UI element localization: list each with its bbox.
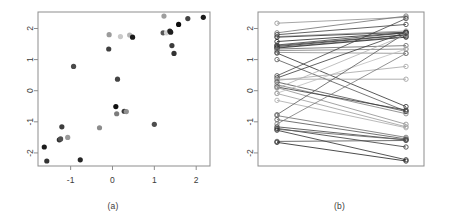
y-axis-tick-label: 2 <box>25 26 35 31</box>
scatter-plot-a: -2-1012-1012 <box>0 0 226 190</box>
slope-line <box>277 52 406 53</box>
slope-line <box>277 16 406 33</box>
x-axis-tick-label: -1 <box>67 175 75 185</box>
data-point <box>161 13 166 18</box>
data-point <box>42 144 47 149</box>
y-axis-tick-label: -2 <box>245 149 255 157</box>
data-point <box>185 16 190 21</box>
slope-line <box>277 53 406 124</box>
slope-line <box>277 100 406 127</box>
data-point <box>113 104 118 109</box>
data-point <box>65 135 70 140</box>
slope-line <box>277 140 406 141</box>
data-point <box>114 111 119 116</box>
data-point <box>152 122 157 127</box>
data-point <box>201 15 206 20</box>
y-axis-tick-label: 0 <box>245 88 255 93</box>
data-point <box>115 77 120 82</box>
slope-plot-b: -2-1012 <box>226 0 453 190</box>
x-axis-tick-label: 2 <box>194 175 199 185</box>
y-axis-tick-label: 0 <box>25 88 35 93</box>
y-axis-tick-label: 2 <box>245 26 255 31</box>
data-point <box>171 51 176 56</box>
panel-a: -2-1012-1012 (a) <box>0 0 226 217</box>
plot-frame <box>38 12 210 166</box>
data-point <box>107 32 112 37</box>
y-axis-tick-label: -2 <box>25 149 35 157</box>
slope-line <box>277 49 406 51</box>
y-axis-tick-label: 1 <box>245 57 255 62</box>
x-axis-tick-label: 0 <box>110 175 115 185</box>
y-axis-tick-label: -1 <box>245 118 255 126</box>
y-axis-tick-label: 1 <box>25 57 35 62</box>
data-point <box>97 125 102 130</box>
panel-a-caption: (a) <box>0 201 226 211</box>
data-point <box>71 64 76 69</box>
y-axis-tick-label: -1 <box>25 118 35 126</box>
data-point <box>124 109 129 114</box>
data-point <box>169 43 174 48</box>
figure-container: -2-1012-1012 (a) -2-1012 (b) <box>0 0 453 217</box>
data-point <box>168 30 173 35</box>
slope-line <box>277 120 406 139</box>
data-point <box>78 157 83 162</box>
slope-line <box>277 19 406 76</box>
data-point <box>176 22 181 27</box>
panel-b-caption: (b) <box>226 201 453 211</box>
data-point <box>118 34 123 39</box>
x-axis-tick-label: 1 <box>152 175 157 185</box>
data-point <box>106 46 111 51</box>
data-point <box>59 124 64 129</box>
data-point <box>58 136 63 141</box>
data-point <box>130 35 135 40</box>
data-point <box>44 158 49 163</box>
panel-b: -2-1012 (b) <box>226 0 453 217</box>
